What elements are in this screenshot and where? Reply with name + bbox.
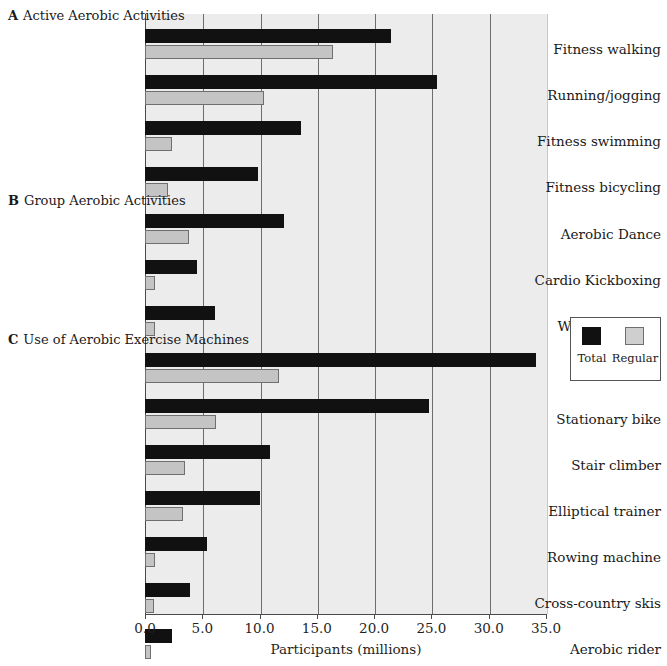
category-label: Running/jogging — [527, 87, 667, 103]
section-title-b: Group Aerobic Activities — [24, 193, 186, 208]
bar-total — [145, 214, 284, 228]
x-tick-15.0 — [317, 614, 318, 619]
category-label: Fitness bicycling — [527, 179, 667, 195]
x-tick-label-10.0: 10.0 — [245, 620, 275, 636]
bar-total — [145, 121, 301, 135]
legend-swatch-regular — [625, 327, 644, 345]
x-tick-label-30.0: 30.0 — [474, 620, 504, 636]
gridline-15.0 — [318, 14, 319, 614]
bar-regular — [145, 507, 183, 521]
category-label: Stair climber — [527, 457, 667, 473]
legend-label-total: Total — [578, 351, 607, 365]
x-tick-25.0 — [431, 614, 432, 619]
bar-regular — [145, 230, 189, 244]
x-tick-label-5.0: 5.0 — [192, 620, 213, 636]
bar-total — [145, 75, 437, 89]
x-tick-label-25.0: 25.0 — [416, 620, 446, 636]
gridline-20.0 — [375, 14, 376, 614]
bar-total — [145, 29, 391, 43]
bar-regular — [145, 137, 172, 151]
category-label: Cardio Kickboxing — [527, 272, 667, 288]
x-tick-20.0 — [374, 614, 375, 619]
bar-regular — [145, 461, 185, 475]
section-letter-c: C — [8, 332, 18, 347]
gridline-30.0 — [490, 14, 491, 614]
category-label: Aerobic rider — [527, 641, 667, 657]
x-tick-label-0.0: 0.0 — [134, 620, 155, 636]
bar-total — [145, 399, 429, 413]
x-tick-35.0 — [546, 614, 547, 619]
bar-total — [145, 491, 260, 505]
bar-regular — [145, 553, 155, 567]
x-axis-line — [145, 614, 547, 615]
section-title-c: Use of Aerobic Exercise Machines — [23, 332, 249, 347]
bar-total — [145, 353, 536, 367]
bar-total — [145, 167, 258, 181]
bar-total — [145, 537, 207, 551]
gridline-25.0 — [432, 14, 433, 614]
legend: Total Regular — [570, 317, 661, 381]
category-label: Elliptical trainer — [527, 503, 667, 519]
x-tick-0.0 — [145, 614, 146, 619]
bar-total — [145, 306, 215, 320]
section-letter-b: B — [8, 193, 19, 208]
bar-regular — [145, 599, 154, 613]
x-tick-10.0 — [260, 614, 261, 619]
x-tick-label-20.0: 20.0 — [359, 620, 389, 636]
legend-swatch-total — [582, 327, 601, 345]
x-tick-5.0 — [202, 614, 203, 619]
x-tick-30.0 — [489, 614, 490, 619]
bar-regular — [145, 415, 216, 429]
aerobic-activity-bar-chart: AActive Aerobic ActivitiesFitness walkin… — [0, 0, 667, 666]
bar-regular — [145, 45, 333, 59]
bar-regular — [145, 91, 264, 105]
x-axis-title: Participants (millions) — [145, 641, 547, 657]
legend-label-regular: Regular — [612, 351, 658, 365]
bar-total — [145, 445, 270, 459]
category-label: Rowing machine — [527, 549, 667, 565]
category-label: Cross-country skis — [527, 595, 667, 611]
category-label: Stationary bike — [527, 411, 667, 427]
section-letter-a: A — [8, 8, 18, 23]
category-label: Fitness walking — [527, 41, 667, 57]
section-header-c: CUse of Aerobic Exercise Machines — [8, 332, 249, 347]
x-tick-label-15.0: 15.0 — [302, 620, 332, 636]
category-label: Aerobic Dance — [527, 226, 667, 242]
section-header-b: BGroup Aerobic Activities — [8, 193, 186, 208]
bar-total — [145, 260, 197, 274]
section-header-a: AActive Aerobic Activities — [8, 8, 185, 23]
bar-total — [145, 583, 190, 597]
category-label: Fitness swimming — [527, 133, 667, 149]
bar-regular — [145, 369, 279, 383]
bar-regular — [145, 276, 155, 290]
x-tick-label-35.0: 35.0 — [531, 620, 561, 636]
section-title-a: Active Aerobic Activities — [23, 8, 185, 23]
